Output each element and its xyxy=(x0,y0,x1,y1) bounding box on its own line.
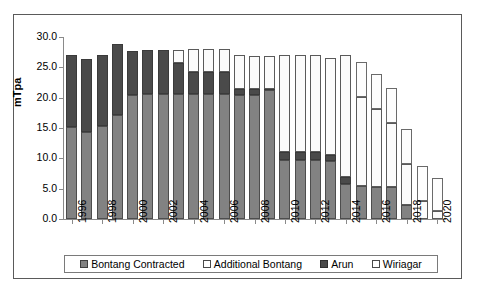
bar-column[interactable] xyxy=(127,37,138,219)
y-tick: 5.0 xyxy=(14,189,64,190)
bar-segment xyxy=(173,63,184,94)
bar-segment xyxy=(249,89,260,95)
bar-column[interactable] xyxy=(371,37,382,219)
bar-segment xyxy=(371,74,382,109)
bar-segment xyxy=(81,59,92,132)
bar-column[interactable] xyxy=(173,37,184,219)
bar-column[interactable] xyxy=(234,37,245,219)
bar-column[interactable] xyxy=(401,37,412,219)
bar-segment xyxy=(188,72,199,94)
bar-segment xyxy=(325,58,336,154)
y-tick-label: 30.0 xyxy=(37,30,57,42)
legend-label: Additional Bontang xyxy=(214,258,302,270)
x-tick-mark xyxy=(315,220,316,224)
x-tick-label: 2004 xyxy=(198,200,210,223)
x-tick-mark xyxy=(102,220,103,224)
bar-segment xyxy=(279,55,290,152)
x-tick-mark xyxy=(346,220,347,224)
x-tick-mark xyxy=(285,220,286,224)
y-tick-label: 15.0 xyxy=(37,121,57,133)
bar-segment xyxy=(386,88,397,123)
x-tick-label: 1996 xyxy=(76,200,88,223)
legend-label: Wiriagar xyxy=(383,258,422,270)
bar-segment xyxy=(386,123,397,188)
bar-column[interactable] xyxy=(310,37,321,219)
y-tick-label: 0.0 xyxy=(42,212,57,224)
bar-column[interactable] xyxy=(219,37,230,219)
legend-item[interactable]: Bontang Contracted xyxy=(80,258,184,270)
bar-column[interactable] xyxy=(325,37,336,219)
legend-swatch-icon xyxy=(320,260,328,268)
bar-segment xyxy=(66,55,77,127)
bar-column[interactable] xyxy=(264,37,275,219)
bar-column[interactable] xyxy=(356,37,367,219)
x-tick-label: 2010 xyxy=(289,200,301,223)
bar-column[interactable] xyxy=(432,37,443,219)
chart-legend: Bontang ContractedAdditional BontangArun… xyxy=(64,255,438,273)
bar-column[interactable] xyxy=(142,37,153,219)
chart-frame: mTpa 0.05.010.015.020.025.030.0 19961998… xyxy=(13,14,462,279)
bar-column[interactable] xyxy=(203,37,214,219)
x-tick-mark xyxy=(224,220,225,224)
x-tick-label: 1998 xyxy=(106,200,118,223)
legend-swatch-icon xyxy=(80,260,88,268)
y-tick-label: 5.0 xyxy=(42,182,57,194)
bar-column[interactable] xyxy=(279,37,290,219)
x-tick-label: 2014 xyxy=(350,200,362,223)
x-tick-label: 2002 xyxy=(167,200,179,223)
bar-segment xyxy=(173,50,184,63)
x-tick-label: 2016 xyxy=(380,200,392,223)
bar-segment xyxy=(142,50,153,94)
x-tick-mark xyxy=(133,220,134,224)
bar-segment xyxy=(249,56,260,89)
legend-item[interactable]: Additional Bontang xyxy=(203,258,302,270)
y-tick: 0.0 xyxy=(14,219,64,220)
bar-segment xyxy=(356,62,367,97)
bar-segment xyxy=(219,49,230,72)
bar-column[interactable] xyxy=(386,37,397,219)
y-tick-mark xyxy=(59,219,64,220)
bar-column[interactable] xyxy=(340,37,351,219)
bar-segment xyxy=(356,97,367,186)
y-tick-label: 25.0 xyxy=(37,60,57,72)
bar-segment xyxy=(340,177,351,184)
bar-segment xyxy=(203,72,214,94)
bar-segment xyxy=(340,55,351,176)
bar-segment xyxy=(310,55,321,152)
plot-area xyxy=(64,37,445,219)
x-tick-label: 2018 xyxy=(411,200,423,223)
y-tick-label: 10.0 xyxy=(37,151,57,163)
legend-label: Bontang Contracted xyxy=(91,258,184,270)
x-tick-mark xyxy=(194,220,195,224)
bar-segment xyxy=(295,55,306,152)
legend-swatch-icon xyxy=(203,260,211,268)
bar-segment xyxy=(279,152,290,159)
x-tick-label: 2006 xyxy=(228,200,240,223)
bar-segment xyxy=(310,152,321,159)
bar-column[interactable] xyxy=(417,37,428,219)
bar-column[interactable] xyxy=(112,37,123,219)
y-axis-title: mTpa xyxy=(11,78,23,107)
legend-item[interactable]: Arun xyxy=(320,258,353,270)
bar-column[interactable] xyxy=(81,37,92,219)
bar-segment xyxy=(97,55,108,125)
bar-segment xyxy=(188,49,199,72)
bar-column[interactable] xyxy=(66,37,77,219)
x-tick-mark xyxy=(163,220,164,224)
bar-segment xyxy=(127,51,138,95)
bar-segment xyxy=(401,129,412,164)
bar-column[interactable] xyxy=(249,37,260,219)
bar-segment xyxy=(295,152,306,159)
x-tick-mark xyxy=(376,220,377,224)
x-tick-label: 2008 xyxy=(259,200,271,223)
legend-item[interactable]: Wiriagar xyxy=(372,258,422,270)
x-tick-label: 2020 xyxy=(441,200,453,223)
bar-column[interactable] xyxy=(295,37,306,219)
bar-column[interactable] xyxy=(97,37,108,219)
bar-column[interactable] xyxy=(188,37,199,219)
bar-segment xyxy=(158,50,169,94)
x-tick-label: 2012 xyxy=(319,200,331,223)
bar-segment xyxy=(219,72,230,94)
bar-column[interactable] xyxy=(158,37,169,219)
x-tick-mark xyxy=(255,220,256,224)
